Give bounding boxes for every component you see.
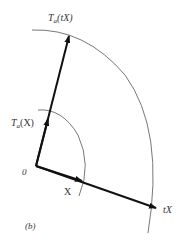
label-tx: tX (163, 205, 172, 215)
arrow-ta-x (36, 119, 48, 166)
large-arc (32, 30, 153, 233)
arrow-x (36, 166, 82, 181)
label-origin: 0 (22, 168, 27, 177)
label-x: X (64, 187, 71, 197)
label-panel-b: (b) (25, 222, 36, 231)
label-ta-x: Ta(X) (11, 118, 34, 130)
small-arc (38, 110, 85, 196)
label-ta-tx: Ta(tX) (48, 13, 73, 25)
